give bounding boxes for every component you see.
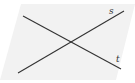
plane	[0, 4, 135, 80]
diagram-canvas: s t	[0, 0, 135, 83]
line-t-label: t	[116, 54, 120, 64]
line-s-label: s	[109, 6, 114, 16]
